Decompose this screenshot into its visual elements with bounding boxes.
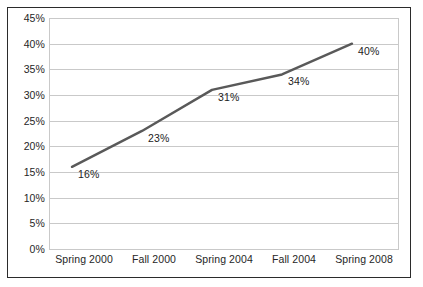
- y-axis-tick-label: 0%: [9, 243, 45, 255]
- x-axis-tick-label: Spring 2000: [55, 253, 113, 265]
- x-axis-tick-label: Spring 2008: [335, 253, 393, 265]
- chart-screenshot: 0%5%10%15%20%25%30%35%40%45% 16%23%31%34…: [0, 0, 423, 287]
- gridline-0: [49, 249, 399, 250]
- point-value-label: 31%: [218, 91, 239, 103]
- point-value-label: 34%: [288, 75, 309, 87]
- series-polyline: [72, 44, 352, 167]
- plot-area: 16%23%31%34%40%: [49, 18, 399, 249]
- y-axis-tick-label: 5%: [9, 217, 45, 229]
- x-axis-tick-label: Fall 2000: [132, 253, 176, 265]
- point-value-label: 16%: [78, 168, 99, 180]
- y-axis-labels: 0%5%10%15%20%25%30%35%40%45%: [8, 18, 45, 249]
- y-axis-tick-label: 20%: [9, 140, 45, 152]
- y-axis-tick-label: 30%: [9, 89, 45, 101]
- x-axis-tick-label: Fall 2004: [272, 253, 316, 265]
- y-axis-tick-label: 15%: [9, 166, 45, 178]
- y-axis-tick-label: 10%: [9, 192, 45, 204]
- x-axis-labels: Spring 2000Fall 2000Spring 2004Fall 2004…: [49, 253, 399, 273]
- y-axis-tick-label: 40%: [9, 38, 45, 50]
- x-axis-tick-label: Spring 2004: [195, 253, 253, 265]
- point-value-label: 23%: [148, 132, 169, 144]
- y-axis-tick-label: 45%: [9, 12, 45, 24]
- series-line-chart: [49, 18, 399, 249]
- point-value-label: 40%: [358, 45, 379, 57]
- y-axis-tick-label: 35%: [9, 63, 45, 75]
- y-axis-tick-label: 25%: [9, 115, 45, 127]
- chart-frame: 0%5%10%15%20%25%30%35%40%45% 16%23%31%34…: [7, 7, 411, 278]
